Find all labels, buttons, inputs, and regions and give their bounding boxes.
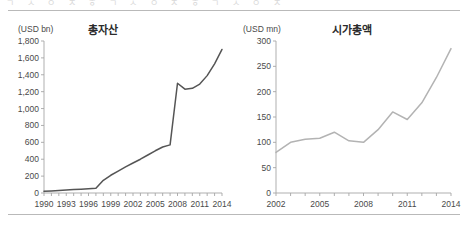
y-axis-label-total-assets: 1,000 (0, 104, 39, 114)
x-axis-label-total-assets: 2005 (146, 199, 165, 209)
plot-area-left: 02004006008001,0001,2001,4001,6001,80019… (0, 11, 234, 211)
data-series-total-assets (44, 49, 222, 191)
figure-root: ㄱ ㅅ ㅇ ㅈ ㅎ ㄱ ㅅ ㅇ ㅈ ㅎ ㄱ ㅅ ㅇ ㅈ (USD bn) 총자산… (0, 0, 468, 227)
chart-panel-total-assets: (USD bn) 총자산 02004006008001,0001,2001,40… (0, 11, 234, 211)
chart-panel-market-cap: (USD mn) 시가총액 05010015020025030020022005… (234, 11, 468, 211)
x-axis-label-total-assets: 1999 (101, 199, 120, 209)
bottom-divider (8, 214, 460, 215)
y-axis-label-total-assets: 0 (0, 188, 39, 198)
y-axis-label-market-cap: 300 (234, 36, 271, 46)
y-axis-label-market-cap: 0 (234, 188, 271, 198)
y-axis-label-total-assets: 200 (0, 171, 39, 181)
x-axis-label-total-assets: 2002 (124, 199, 143, 209)
x-axis-label-total-assets: 1990 (35, 199, 54, 209)
data-series-market-cap (276, 49, 451, 153)
y-axis-label-market-cap: 250 (234, 61, 271, 71)
cut-off-text-band: ㄱ ㅅ ㅇ ㅈ ㅎ ㄱ ㅅ ㅇ ㅈ ㅎ ㄱ ㅅ ㅇ ㅈ (0, 0, 468, 9)
y-axis-label-total-assets: 400 (0, 154, 39, 164)
x-axis-label-market-cap: 2002 (267, 199, 286, 209)
plot-area-right: 05010015020025030020022005200820112014 (234, 11, 468, 211)
y-axis-label-total-assets: 1,600 (0, 53, 39, 63)
y-axis-label-total-assets: 1,400 (0, 70, 39, 80)
y-axis-label-total-assets: 1,200 (0, 87, 39, 97)
axis-lines-total-assets (44, 41, 222, 193)
x-axis-label-market-cap: 2005 (310, 199, 329, 209)
x-axis-label-market-cap: 2008 (354, 199, 373, 209)
x-axis-label-total-assets: 2011 (191, 199, 209, 209)
axis-lines-market-cap (276, 41, 451, 193)
y-axis-label-total-assets: 600 (0, 137, 39, 147)
x-axis-label-total-assets: 2014 (213, 199, 232, 209)
x-axis-label-total-assets: 1993 (57, 199, 76, 209)
y-axis-label-market-cap: 50 (234, 163, 271, 173)
x-axis-label-total-assets: 2008 (168, 199, 187, 209)
x-axis-label-total-assets: 1996 (79, 199, 98, 209)
x-axis-label-market-cap: 2011 (398, 199, 416, 209)
y-axis-label-total-assets: 1,800 (0, 36, 39, 46)
y-axis-label-market-cap: 100 (234, 137, 271, 147)
y-axis-label-total-assets: 800 (0, 120, 39, 130)
y-axis-label-market-cap: 200 (234, 87, 271, 97)
x-axis-label-market-cap: 2014 (442, 199, 461, 209)
cut-off-text: ㄱ ㅅ ㅇ ㅈ ㅎ ㄱ ㅅ ㅇ ㅈ ㅎ ㄱ ㅅ ㅇ ㅈ (6, 0, 468, 9)
y-axis-label-market-cap: 150 (234, 112, 271, 122)
